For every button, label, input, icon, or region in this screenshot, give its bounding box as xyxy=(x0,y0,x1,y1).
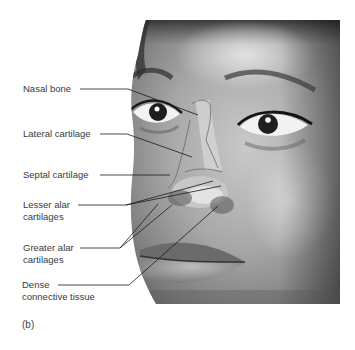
label-lesser-alar-cartilages: Lesser alar cartilages xyxy=(23,199,70,223)
label-text: Nasal bone xyxy=(23,83,71,94)
label-text: Lesser alar xyxy=(23,199,70,211)
label-text: connective tissue xyxy=(22,291,95,303)
label-dense-connective-tissue: Dense connective tissue xyxy=(22,279,95,303)
label-text: Septal cartilage xyxy=(23,169,88,180)
face-photo xyxy=(120,15,350,310)
label-greater-alar-cartilages: Greater alar cartilages xyxy=(23,242,74,266)
label-text: cartilages xyxy=(23,211,70,223)
label-septal-cartilage: Septal cartilage xyxy=(23,169,88,181)
label-text: Greater alar xyxy=(23,242,74,254)
label-text: Dense xyxy=(22,279,95,291)
label-text: cartilages xyxy=(23,254,74,266)
label-lateral-cartilage: Lateral cartilage xyxy=(23,128,91,140)
label-text: Lateral cartilage xyxy=(23,128,91,139)
label-nasal-bone: Nasal bone xyxy=(23,83,71,95)
panel-label: (b) xyxy=(22,319,34,330)
